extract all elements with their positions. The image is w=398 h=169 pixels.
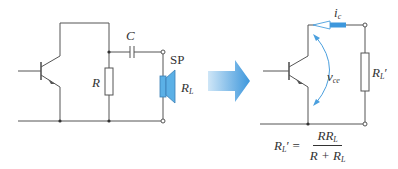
capacitor-label: C [126,29,135,42]
voltage-label: vce [327,70,340,85]
circuit-diagram: C R SP RL ic vce RL′ RL′ = RRL R + RL [0,0,398,169]
load-formula: RL′ = RRL R + RL [274,128,349,164]
formula-fraction: RRL R + RL [306,128,350,164]
right-arrow-icon [208,60,250,102]
current-label: ic [334,6,341,21]
speaker-label: SP [170,53,184,66]
resistor-label: R [92,76,100,89]
load-label-left: RL [181,81,193,96]
formula-lhs: RL′ = [274,138,300,154]
speaker-icon [160,70,175,103]
load-label-right: RL′ [372,66,387,81]
